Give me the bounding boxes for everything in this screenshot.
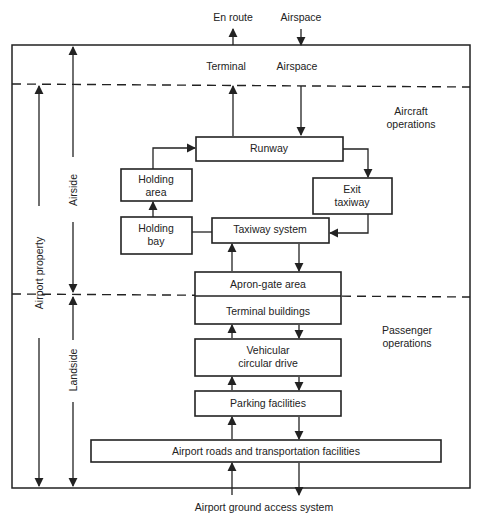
airside-label: Airside (67, 174, 79, 206)
airspace-external-label: Airspace (281, 11, 322, 23)
airport-system-diagram: En route Airspace Terminal Airspace Airc… (0, 0, 481, 526)
airspace-label: Airspace (277, 60, 318, 72)
holding-bay-label-1: Holding (138, 222, 174, 234)
exit-to-taxiway-system-arrow (330, 214, 368, 233)
taxiway-system-label: Taxiway system (233, 223, 307, 235)
holding-area-label-1: Holding (138, 173, 174, 185)
aircraft-operations-label-2: operations (386, 118, 435, 130)
apron-gate-label: Apron-gate area (230, 278, 306, 290)
parking-label: Parking facilities (230, 397, 306, 409)
landside-label: Landside (67, 349, 79, 392)
runway-to-exit-taxiway-arrow (343, 149, 368, 177)
aircraft-operations-label-1: Aircraft (394, 105, 427, 117)
terminal-label: Terminal (206, 60, 246, 72)
exit-taxiway-label-2: taxiway (334, 196, 370, 208)
exit-taxiway-label-1: Exit (343, 183, 361, 195)
passenger-operations-label-2: operations (382, 337, 431, 349)
terminal-airspace-divider (12, 84, 470, 87)
vehicular-label-2: circular drive (238, 357, 298, 369)
holding-bay-label-2: bay (148, 235, 166, 247)
en-route-label: En route (213, 11, 253, 23)
holding-area-to-runway-arrow (153, 148, 195, 169)
airport-roads-label: Airport roads and transportation facilit… (172, 445, 360, 457)
runway-label: Runway (250, 142, 289, 154)
terminal-buildings-label: Terminal buildings (226, 305, 310, 317)
airport-property-label: Airport property (33, 236, 45, 309)
holding-area-label-2: area (145, 186, 166, 198)
ground-access-label: Airport ground access system (195, 501, 334, 513)
passenger-operations-label-1: Passenger (382, 324, 433, 336)
vehicular-label-1: Vehicular (246, 344, 290, 356)
